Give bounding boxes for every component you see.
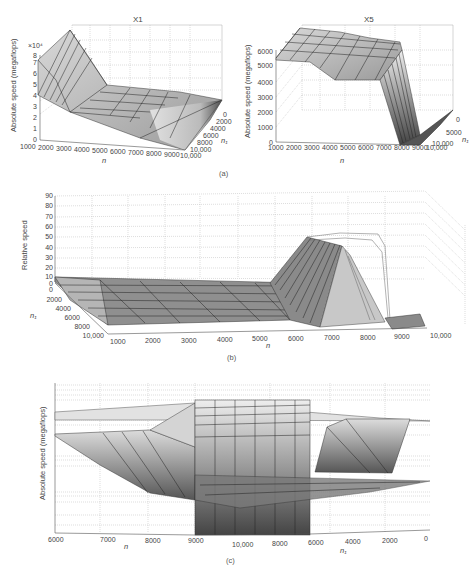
z-tick-labels: 0 10 20 30 40 50 60 70 80 90 — [45, 192, 53, 287]
svg-text:80: 80 — [45, 202, 53, 209]
svg-text:1000: 1000 — [268, 144, 284, 151]
svg-text:7000: 7000 — [376, 144, 392, 151]
svg-text:4000: 4000 — [257, 79, 273, 86]
svg-text:10,000: 10,000 — [83, 332, 105, 339]
svg-text:4000: 4000 — [210, 125, 226, 132]
y-axis-label: Absolute speed (megaflops) — [38, 406, 47, 500]
svg-text:4000: 4000 — [55, 305, 71, 312]
svg-text:2000: 2000 — [257, 109, 273, 116]
svg-text:70: 70 — [45, 213, 53, 220]
svg-text:8000: 8000 — [145, 537, 161, 544]
chart-title: X1 — [133, 15, 143, 24]
n1-tick-labels: 10,000 8000 6000 4000 2000 0 — [232, 535, 428, 548]
svg-text:7: 7 — [33, 59, 37, 66]
x-tick-labels: 1000 2000 3000 4000 5000 6000 7000 8000 … — [268, 144, 448, 151]
svg-text:9000: 9000 — [188, 537, 204, 544]
exponent-label: ×10⁴ — [28, 42, 43, 49]
svg-text:1000: 1000 — [20, 143, 36, 150]
y-axis-label: Relative speed — [20, 220, 29, 270]
n1-axis-label: n₁ — [221, 136, 228, 145]
svg-text:7000: 7000 — [128, 149, 144, 156]
svg-text:10,000: 10,000 — [432, 140, 454, 147]
svg-text:4000: 4000 — [217, 336, 233, 343]
svg-text:30: 30 — [45, 254, 53, 261]
z-tick-labels: 0 1 2 3 4 5 6 7 8 — [33, 52, 37, 143]
svg-text:8000: 8000 — [272, 540, 288, 547]
n1-axis-label: n₁ — [30, 311, 37, 320]
svg-text:3000: 3000 — [257, 94, 273, 101]
svg-text:6000: 6000 — [257, 48, 273, 55]
svg-text:0: 0 — [33, 136, 37, 143]
svg-text:5000: 5000 — [340, 144, 356, 151]
svg-text:8000: 8000 — [394, 144, 410, 151]
svg-text:8000: 8000 — [197, 139, 213, 146]
svg-text:1000: 1000 — [257, 124, 273, 131]
y-axis-label: Absolute speed (megaflops) — [9, 38, 18, 132]
svg-text:3000: 3000 — [181, 337, 197, 344]
n1-tick-labels: 0 5000 10,000 — [432, 116, 462, 147]
svg-text:6000: 6000 — [203, 132, 219, 139]
svg-text:6000: 6000 — [110, 148, 126, 155]
svg-text:40: 40 — [45, 244, 53, 251]
caption-c: (c) — [226, 556, 235, 565]
svg-text:4000: 4000 — [74, 146, 90, 153]
x-axis-label: n — [266, 341, 270, 350]
x-tick-labels: 1000 2000 3000 4000 5000 6000 7000 8000 … — [110, 332, 452, 345]
svg-text:4000: 4000 — [322, 144, 338, 151]
svg-text:6: 6 — [33, 70, 37, 77]
svg-text:5000: 5000 — [92, 147, 108, 154]
panel-a-right-x5: X5 — [243, 15, 469, 165]
svg-text:0: 0 — [223, 111, 227, 118]
figure-canvas: X1 ×10⁴ — [0, 0, 471, 576]
x-axis-label: n — [340, 156, 344, 165]
svg-text:20: 20 — [45, 264, 53, 271]
svg-text:2000: 2000 — [46, 296, 62, 303]
caption-b: (b) — [227, 353, 237, 362]
svg-text:2: 2 — [33, 114, 37, 121]
svg-text:0: 0 — [49, 286, 53, 293]
svg-text:60: 60 — [45, 223, 53, 230]
svg-text:10,000: 10,000 — [180, 152, 202, 159]
svg-text:3: 3 — [33, 103, 37, 110]
svg-text:8000: 8000 — [146, 150, 162, 157]
chart-title: X5 — [364, 15, 374, 24]
svg-text:10: 10 — [45, 273, 53, 280]
svg-text:4000: 4000 — [345, 538, 361, 545]
y-axis-label: Absolute speed (megaflops) — [243, 44, 252, 138]
svg-text:6000: 6000 — [288, 335, 304, 342]
svg-text:0: 0 — [424, 535, 428, 542]
svg-text:2000: 2000 — [216, 118, 232, 125]
svg-text:2000: 2000 — [38, 144, 54, 151]
svg-text:6000: 6000 — [308, 539, 324, 546]
svg-text:5: 5 — [33, 81, 37, 88]
caption-a: (a) — [219, 169, 229, 178]
svg-text:6000: 6000 — [64, 314, 80, 321]
svg-text:10,000: 10,000 — [190, 146, 212, 153]
panel-c-closeup: Absolute speed (megaflops) 6000 7000 800… — [38, 383, 430, 555]
svg-text:0: 0 — [456, 116, 460, 123]
svg-text:6000: 6000 — [358, 144, 374, 151]
svg-text:10,000: 10,000 — [232, 541, 254, 548]
svg-text:2000: 2000 — [286, 144, 302, 151]
svg-text:6000: 6000 — [48, 536, 64, 543]
x-axis-label: n — [124, 542, 128, 551]
svg-text:1: 1 — [33, 125, 37, 132]
svg-text:5000: 5000 — [446, 129, 462, 136]
svg-text:7000: 7000 — [324, 334, 340, 341]
svg-text:9000: 9000 — [164, 151, 180, 158]
x-axis-label: n — [102, 156, 106, 165]
svg-text:10,000: 10,000 — [430, 332, 452, 339]
svg-text:3000: 3000 — [304, 144, 320, 151]
svg-text:8: 8 — [33, 52, 37, 59]
panel-b-relative-speed: 0 10 20 30 40 50 60 70 80 90 Relative sp… — [20, 191, 465, 350]
svg-text:1000: 1000 — [110, 338, 126, 345]
panel-a-left-x1: X1 ×10⁴ — [9, 15, 232, 165]
svg-text:2000: 2000 — [145, 337, 161, 344]
svg-text:9000: 9000 — [394, 333, 410, 340]
svg-text:5000: 5000 — [257, 62, 273, 69]
svg-text:2000: 2000 — [382, 537, 398, 544]
svg-text:3000: 3000 — [56, 145, 72, 152]
svg-text:8000: 8000 — [74, 323, 90, 330]
z-tick-labels: 0 1000 2000 3000 4000 5000 6000 — [257, 48, 273, 146]
n1-axis-label: n₁ — [462, 135, 469, 144]
